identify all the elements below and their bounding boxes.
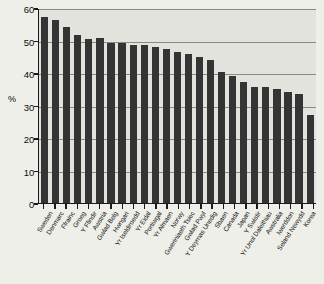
x-tick-mark — [178, 204, 179, 209]
x-tick-mark — [99, 204, 100, 209]
bar-chart: % 0102030405060 SwedenDenmarcFfraincGroe… — [0, 0, 324, 284]
x-tick-mark — [268, 204, 269, 209]
x-tick-mark — [133, 204, 134, 209]
x-tick-mark — [290, 204, 291, 209]
y-tick-label: 40 — [8, 69, 34, 80]
bar — [185, 54, 192, 203]
x-tick-mark — [155, 204, 156, 209]
y-tick-label: 20 — [8, 134, 34, 145]
bar — [41, 17, 48, 203]
bar — [118, 43, 125, 203]
x-tick-mark — [279, 204, 280, 209]
bar — [174, 52, 181, 203]
x-tick-mark — [54, 204, 55, 209]
x-tick-mark — [200, 204, 201, 209]
x-axis-labels: SwedenDenmarcFfraincGroegY FfindirAwstri… — [38, 210, 316, 284]
bar — [96, 38, 103, 203]
bar-series — [39, 9, 316, 203]
x-tick-mark — [110, 204, 111, 209]
x-tick-mark — [223, 204, 224, 209]
y-tick-label: 60 — [8, 4, 34, 15]
x-tick-mark — [313, 204, 314, 209]
y-tick-label: 50 — [8, 36, 34, 47]
bar — [229, 76, 236, 203]
bar — [163, 49, 170, 203]
y-tick-label: 0 — [8, 199, 34, 210]
x-tick-mark — [144, 204, 145, 209]
bar — [284, 92, 291, 203]
x-tick-mark — [245, 204, 246, 209]
x-tick-mark — [122, 204, 123, 209]
x-tick-mark — [256, 204, 257, 209]
x-tick-mark — [211, 204, 212, 209]
bar — [63, 27, 70, 203]
bar — [130, 45, 137, 203]
bar — [273, 89, 280, 203]
y-tick-label: 30 — [8, 101, 34, 112]
bar — [262, 87, 269, 203]
bar — [52, 20, 59, 203]
bar — [85, 39, 92, 203]
bar — [107, 43, 114, 203]
bar — [207, 60, 214, 203]
bar — [295, 94, 302, 203]
x-tick-mark — [189, 204, 190, 209]
bar — [141, 45, 148, 203]
x-tick-mark — [65, 204, 66, 209]
bar — [218, 72, 225, 203]
x-tick-mark — [234, 204, 235, 209]
x-tick-mark — [301, 204, 302, 209]
x-tick-mark — [88, 204, 89, 209]
y-tick-label: 10 — [8, 166, 34, 177]
bar — [240, 82, 247, 203]
plot-area — [38, 9, 316, 204]
x-tick-mark — [77, 204, 78, 209]
bar — [196, 57, 203, 203]
bar — [307, 115, 314, 203]
bar — [152, 47, 159, 203]
x-tick-mark — [43, 204, 44, 209]
bar — [251, 87, 258, 203]
y-axis: 0102030405060 — [0, 9, 34, 204]
x-axis-ticks — [38, 204, 316, 209]
bar — [74, 35, 81, 203]
